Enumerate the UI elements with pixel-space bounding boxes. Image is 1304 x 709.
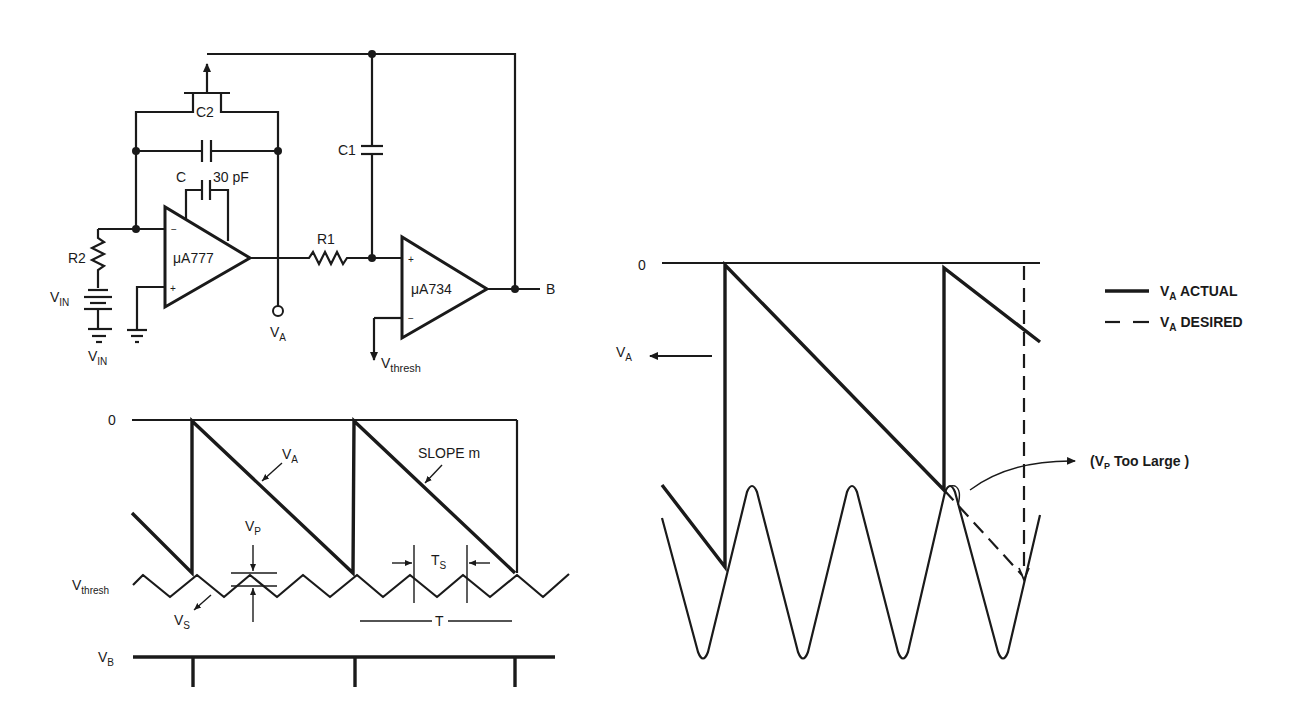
opamp2-label: μA734 bbox=[411, 281, 452, 297]
battery-vin: VIN bbox=[50, 289, 112, 328]
r2-resistor: R2 bbox=[68, 229, 104, 288]
c1-label: C1 bbox=[338, 142, 356, 158]
r1-resistor: R1 bbox=[278, 231, 402, 264]
zero-label: 0 bbox=[638, 257, 646, 273]
ground-icon bbox=[88, 329, 112, 342]
r1-label: R1 bbox=[317, 231, 335, 247]
output-b-label: B bbox=[546, 281, 555, 297]
vthresh-wave-label: Vthresh bbox=[72, 577, 109, 596]
integrator-capacitor bbox=[132, 140, 282, 162]
va-wave-label: VA bbox=[282, 446, 298, 465]
right-timing-diagram: 0 VA (VP Too Large ) bbox=[616, 257, 1189, 659]
vb-label: VB bbox=[98, 649, 114, 668]
svg-text:VA DESIRED: VA DESIRED bbox=[1160, 314, 1243, 333]
ground-icon bbox=[127, 330, 147, 342]
va-label: VA bbox=[270, 324, 286, 343]
t-period-label: T bbox=[435, 613, 444, 629]
opamp1-plus: + bbox=[170, 283, 176, 294]
ts-label: TS bbox=[431, 552, 447, 571]
legend: VA ACTUAL VA DESIRED bbox=[1105, 283, 1243, 333]
c-label: C bbox=[176, 169, 186, 185]
opamp-ua777: μA777 − + bbox=[165, 207, 250, 307]
annotation-arrow bbox=[970, 461, 1075, 490]
va-test-point bbox=[273, 306, 283, 316]
opamp2-plus: + bbox=[408, 254, 414, 265]
c2-label: C2 bbox=[196, 104, 214, 120]
vp-label: VP bbox=[245, 518, 261, 537]
opamp2-minus: − bbox=[408, 313, 414, 324]
feedback-wire bbox=[207, 54, 515, 289]
vthresh-label: Vthresh bbox=[381, 355, 421, 374]
c1-capacitor: C1 bbox=[338, 54, 383, 258]
opamp1-minus: − bbox=[171, 224, 177, 235]
va-desired-dashed bbox=[944, 490, 1022, 575]
opamp1-label: μA777 bbox=[173, 250, 214, 266]
large-ripple-wave bbox=[662, 486, 1040, 659]
vin-label: VIN bbox=[50, 289, 69, 308]
left-timing-diagram: 0 VA SLOPE m Vthresh VP VS TS T bbox=[72, 412, 569, 687]
va-sawtooth bbox=[132, 421, 515, 573]
circuit-schematic: C2 C 30 pF μA777 − + bbox=[50, 50, 555, 374]
c-value-label: 30 pF bbox=[213, 169, 249, 185]
zero-label: 0 bbox=[108, 412, 116, 428]
legend-item-actual: VA ACTUAL bbox=[1105, 283, 1238, 302]
vthresh-ripple bbox=[133, 574, 569, 597]
va-actual-sawtooth bbox=[662, 265, 1040, 567]
r2-label: R2 bbox=[68, 250, 86, 266]
vp-too-large-annotation: (VP Too Large ) bbox=[1090, 453, 1189, 471]
vs-label: VS bbox=[174, 612, 190, 631]
legend-item-desired: VA DESIRED bbox=[1105, 314, 1243, 333]
slope-label: SLOPE m bbox=[418, 445, 480, 461]
diagram-canvas: C2 C 30 pF μA777 − + bbox=[0, 0, 1304, 709]
va-label: VA bbox=[616, 344, 632, 363]
vin-ground-label: VIN bbox=[88, 348, 107, 367]
svg-text:VA ACTUAL: VA ACTUAL bbox=[1160, 283, 1238, 302]
comparator-ua734: μA734 + − bbox=[402, 237, 487, 338]
